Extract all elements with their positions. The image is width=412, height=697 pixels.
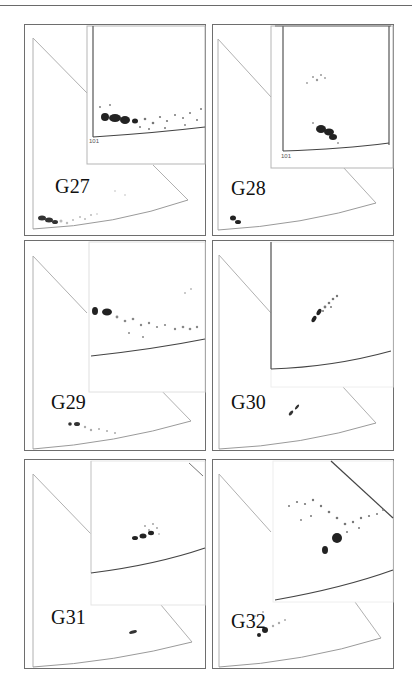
panel-label-g29: G29 — [51, 391, 86, 414]
panel-label-g30: G30 — [231, 391, 266, 414]
inset-tick-g27: 101 — [89, 138, 100, 144]
panel-g29: G29 — [24, 240, 206, 451]
panel-label-g32: G32 — [231, 610, 266, 633]
fan-plot-g29 — [25, 241, 207, 452]
panel-label-g27: G27 — [55, 175, 90, 198]
panel-g28: 101 G28 — [212, 24, 394, 236]
panel-g27: 101 G27 — [24, 24, 206, 236]
fan-plot-g28: 101 — [213, 25, 395, 237]
panel-label-g28: G28 — [231, 177, 266, 200]
panel-g32: G32 — [212, 459, 394, 669]
panel-g31: G31 — [24, 459, 206, 669]
fan-plot-g27: 101 — [25, 25, 207, 237]
fan-plot-g30 — [213, 241, 395, 452]
inset-tick-g28: 101 — [281, 153, 292, 159]
fan-plot-g31 — [25, 460, 207, 670]
top-rule — [0, 5, 412, 6]
panel-label-g31: G31 — [51, 606, 86, 629]
fan-plot-g32 — [213, 460, 395, 670]
panel-g30: G30 — [212, 240, 394, 451]
